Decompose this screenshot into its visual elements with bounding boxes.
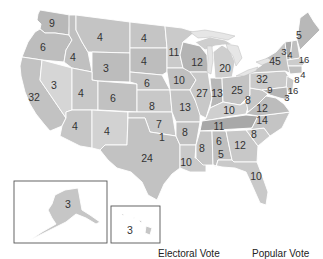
electoral-vote-toggle[interactable]: Electoral Vote	[158, 248, 220, 259]
ev-label-GA: 12	[234, 139, 246, 151]
ev-label-FL: 10	[250, 170, 262, 182]
state-NM[interactable]	[92, 110, 128, 150]
ev-label-NC: 14	[256, 114, 268, 126]
ev-label-WV: 8	[245, 94, 251, 106]
popular-vote-toggle[interactable]: Popular Vote	[252, 248, 309, 259]
ev-label-AK: 3	[65, 198, 71, 210]
ev-label-ID: 4	[70, 51, 76, 63]
ev-label-NM: 4	[104, 125, 110, 137]
ev-label-OH: 25	[231, 84, 243, 96]
ev-label-MN: 11	[169, 46, 180, 58]
ev-label-AZ: 4	[72, 120, 78, 132]
ev-label-IA: 10	[173, 74, 185, 86]
ev-label-AR: 8	[182, 126, 188, 138]
ev-label-RI: 4	[300, 69, 305, 80]
ev-label-MI: 20	[219, 62, 231, 74]
state-FL[interactable]	[213, 160, 268, 205]
ev-label-CT: 8	[294, 74, 299, 85]
state-CO[interactable]	[98, 81, 137, 112]
ev-label-IL: 27	[196, 87, 208, 99]
state-AR[interactable]	[176, 122, 200, 145]
state-ND[interactable]	[130, 22, 167, 48]
ev-label-UT: 4	[78, 87, 84, 99]
ev-label-MO: 13	[179, 101, 191, 113]
ev-label-WY: 3	[103, 62, 109, 74]
ev-label-VT: 3	[281, 46, 286, 57]
ev-label-CA: 32	[28, 91, 40, 103]
ev-label-OK-b: 1	[159, 131, 165, 143]
ev-label-TN: 11	[214, 120, 225, 132]
ev-label-TX: 24	[141, 152, 153, 164]
state-WY[interactable]	[92, 52, 130, 82]
ev-label-OR: 6	[40, 41, 46, 53]
hawaii-inset-frame	[111, 206, 160, 243]
ev-label-ND: 4	[141, 32, 147, 44]
ev-label-LA: 10	[180, 156, 192, 168]
ev-label-AL-b: 5	[218, 148, 224, 160]
ev-label-MD: 9	[267, 84, 272, 95]
ev-label-HI: 3	[127, 224, 133, 236]
ev-label-SC: 8	[251, 128, 257, 140]
state-SD[interactable]	[130, 48, 167, 75]
ev-label-PA: 32	[256, 73, 268, 85]
ev-label-WI: 12	[191, 56, 203, 68]
lake-michigan	[207, 46, 213, 74]
ev-label-NH: 4	[287, 49, 292, 60]
ev-label-MS: 8	[199, 142, 205, 154]
ev-label-WA: 9	[49, 17, 55, 29]
ev-label-CO: 6	[110, 92, 116, 104]
ev-label-DE: 3	[284, 92, 289, 103]
ev-label-OK-a: 7	[156, 118, 162, 130]
us-map: 9 6 32 3 4 4 3 4 6 4 4 4 4 6 8 7 1 24 11…	[0, 0, 323, 259]
ev-label-IN: 13	[211, 87, 223, 99]
ev-label-KY: 10	[223, 104, 235, 116]
ev-label-MA: 16	[299, 54, 310, 65]
ev-label-KS: 8	[149, 100, 155, 112]
ev-label-MT: 4	[97, 31, 103, 43]
ev-label-AL-a: 6	[216, 135, 222, 147]
ev-label-NE: 6	[144, 77, 150, 89]
ev-label-SD: 4	[141, 55, 147, 67]
ev-label-ME: 5	[296, 29, 302, 41]
ev-label-NV: 3	[51, 79, 57, 91]
ev-label-VA: 12	[256, 102, 268, 114]
ev-label-NY: 45	[269, 55, 281, 67]
